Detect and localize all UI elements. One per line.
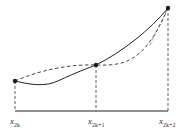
point-x2k [13, 79, 17, 83]
label-x2k2: x2k+2 [159, 117, 175, 128]
label-x2k1: x2k+1 [88, 117, 104, 128]
solid-function-curve [15, 8, 168, 85]
point-x2k2 [166, 6, 170, 10]
point-x2k1 [94, 63, 98, 67]
dashed-interpolating-curve [15, 8, 168, 81]
label-x2k: x2k [10, 117, 20, 128]
